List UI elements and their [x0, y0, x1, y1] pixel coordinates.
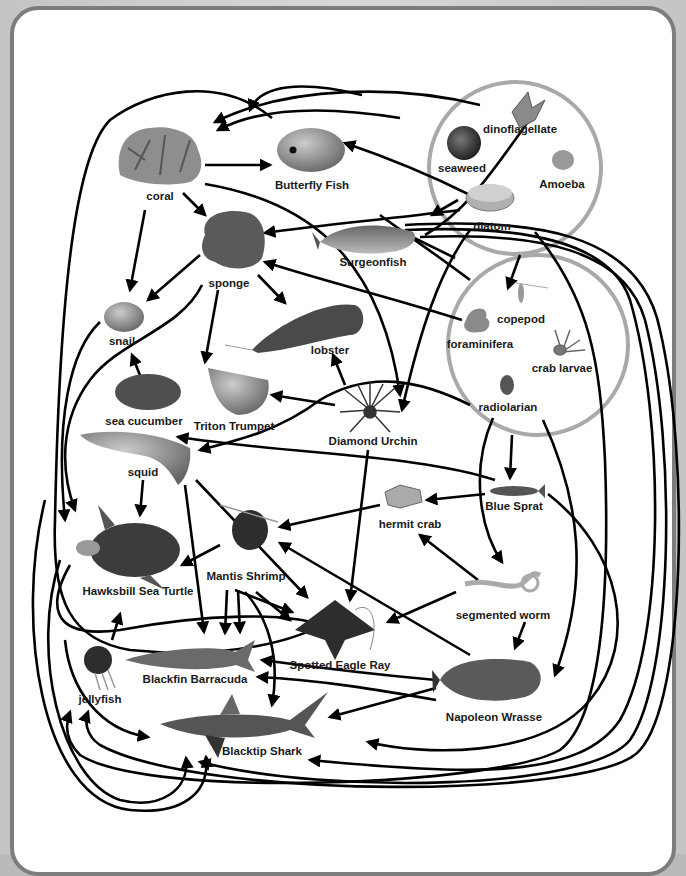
amoeba-icon: [552, 150, 574, 170]
hermit-crab-label: hermit crab: [379, 518, 442, 530]
copepod-icon: [518, 283, 524, 303]
squid-node: squid: [80, 432, 190, 485]
sponge-label: sponge: [209, 277, 250, 289]
hawksbill-sea-turtle-label: Hawksbill Sea Turtle: [83, 585, 194, 597]
coral-label: coral: [146, 190, 174, 202]
mantis-shrimp-node: Mantis Shrimp: [206, 505, 285, 582]
triton-trumpet-label: Triton Trumpet: [194, 420, 275, 432]
mantis-shrimp-label: Mantis Shrimp: [206, 570, 285, 582]
crab-larvae-icon: [554, 330, 585, 355]
triton-trumpet-icon: [208, 368, 269, 415]
segmented-worm-node: segmented worm: [456, 574, 551, 621]
segmented-worm-label: segmented worm: [456, 609, 551, 621]
blacktip-shark-node: Blacktip Shark: [160, 692, 328, 758]
seaweed-label: seaweed: [438, 162, 486, 174]
crab-larvae-label: crab larvae: [532, 362, 593, 374]
hermit-crab-icon: [385, 485, 422, 508]
copepod-label: copepod: [497, 313, 545, 325]
snail-icon: [104, 302, 144, 332]
napoleon-wrasse-icon: [440, 659, 541, 701]
spotted-eagle-ray-node: Spotted Eagle Ray: [290, 600, 392, 671]
hermit-crab-node: hermit crab: [379, 485, 442, 530]
snail-label: snail: [109, 335, 135, 347]
jellyfish-label: jellyfish: [78, 693, 122, 705]
jellyfish-icon: [84, 646, 112, 674]
coral-node: coral: [119, 127, 202, 202]
amoeba-node: Amoeba: [539, 150, 585, 190]
radiolarian-icon: [500, 375, 514, 395]
blackfin-barracuda-node: Blackfin Barracuda: [125, 640, 255, 685]
hawksbill-sea-turtle-icon: [90, 523, 180, 577]
butterfly-fish-node: Butterfly Fish: [275, 128, 349, 191]
blacktip-shark-label: Blacktip Shark: [222, 745, 302, 757]
butterfly-fish-label: Butterfly Fish: [275, 179, 349, 191]
blacktip-shark-icon: [160, 692, 328, 738]
coral-icon: [119, 127, 202, 184]
surgeonfish-label: Surgeonfish: [339, 256, 406, 268]
diamond-urchin-icon: [340, 382, 400, 432]
triton-trumpet-node: Triton Trumpet: [194, 368, 275, 432]
surgeonfish-icon: [320, 225, 415, 253]
butterfly-fish-icon: [277, 128, 345, 172]
sea-cucumber-icon: [115, 374, 181, 410]
sponge-node: sponge: [202, 211, 265, 289]
sea-cucumber-label: sea cucumber: [105, 415, 183, 427]
squid-label: squid: [128, 466, 159, 478]
copepod-node: copepod: [497, 283, 548, 325]
blue-sprat-label: Blue Sprat: [485, 500, 543, 512]
hawksbill-sea-turtle-node: Hawksbill Sea Turtle: [76, 505, 194, 597]
dinoflagellate-label: dinoflagellate: [483, 123, 557, 135]
seaweed-node: seaweed: [438, 126, 486, 174]
lobster-label: lobster: [311, 344, 350, 356]
dinoflagellate-node: dinoflagellate: [483, 92, 557, 135]
spotted-eagle-ray-label: Spotted Eagle Ray: [290, 659, 392, 671]
diatom-label: diatom: [473, 220, 511, 232]
seaweed-icon: [447, 126, 481, 160]
foraminifera-label: foraminifera: [447, 338, 514, 350]
napoleon-wrasse-label: Napoleon Wrasse: [446, 711, 542, 723]
surgeonfish-node: Surgeonfish: [312, 225, 415, 268]
mantis-shrimp-icon: [232, 510, 268, 550]
radiolarian-label: radiolarian: [479, 401, 538, 413]
spotted-eagle-ray-icon: [295, 600, 375, 660]
diamond-urchin-node: [340, 382, 400, 432]
napoleon-wrasse-node: Napoleon Wrasse: [432, 659, 542, 723]
crab-larvae-node: crab larvae: [532, 330, 593, 374]
diamond-urchin-label: Diamond Urchin: [329, 435, 418, 447]
foraminifera-icon: [464, 308, 489, 332]
jellyfish-node: jellyfish: [78, 646, 122, 705]
blue-sprat-icon: [490, 486, 538, 496]
blackfin-barracuda-icon: [125, 640, 255, 672]
radiolarian-node: radiolarian: [479, 375, 538, 413]
sponge-icon: [202, 211, 265, 268]
sea-cucumber-node: sea cucumber: [105, 374, 183, 427]
blue-sprat-node: Blue Sprat: [485, 484, 545, 512]
diatom-node: diatom: [466, 184, 514, 232]
amoeba-label: Amoeba: [539, 178, 585, 190]
lobster-node: lobster: [225, 304, 363, 356]
blackfin-barracuda-label: Blackfin Barracuda: [143, 673, 248, 685]
